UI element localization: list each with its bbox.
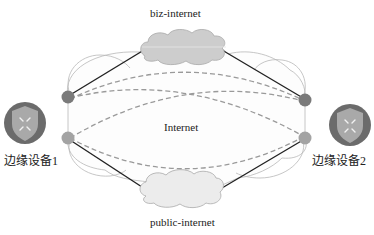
internet-region-outline (67, 41, 306, 188)
diagram-graphics (0, 0, 374, 235)
edge1-port-bottom (62, 132, 75, 145)
edge-device-2-label: 边缘设备2 (312, 151, 366, 169)
public-internet-cloud (140, 170, 223, 208)
edge2-port-bottom (299, 132, 312, 145)
edge2-port-top (299, 94, 312, 107)
network-diagram: biz-internet Internet public-internet 边缘… (0, 0, 374, 235)
edge1-port-top (62, 91, 75, 104)
edge-device-1-label: 边缘设备1 (4, 151, 58, 169)
public-internet-label: public-internet (150, 216, 215, 228)
biz-internet-label: biz-internet (150, 7, 201, 19)
edge-device-2-icon (329, 104, 371, 146)
internet-label: Internet (164, 121, 198, 133)
edge-device-1-icon (4, 102, 46, 144)
